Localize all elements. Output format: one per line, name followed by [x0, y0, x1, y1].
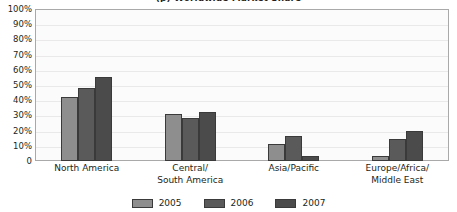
- bar: [268, 144, 285, 161]
- bar: [406, 131, 423, 161]
- chart-legend: 200520062007: [0, 196, 457, 210]
- y-axis-tick-label: 60%: [13, 66, 32, 74]
- x-axis-category-label: Asia/Pacific: [242, 163, 346, 175]
- x-axis-category-label: North America: [35, 163, 139, 175]
- y-axis-tick-label: 10%: [13, 142, 32, 150]
- y-axis-tick-label: 70%: [13, 51, 32, 59]
- bar: [285, 136, 302, 161]
- bar: [372, 156, 389, 161]
- legend-swatch-icon: [204, 199, 225, 208]
- bar: [182, 118, 199, 161]
- y-axis-tick-label: 0: [27, 157, 32, 165]
- y-axis: 100%90%80%70%60%50%40%30%20%10%0: [0, 9, 32, 161]
- bar: [78, 88, 95, 161]
- worldwide-market-share-chart: (p) Worldwide Market Share 100%90%80%70%…: [0, 0, 457, 212]
- y-axis-tick-label: 40%: [13, 96, 32, 104]
- legend-swatch-icon: [275, 199, 296, 208]
- bar: [199, 112, 216, 161]
- legend-item[interactable]: 2005: [132, 199, 182, 208]
- bar: [61, 97, 78, 161]
- legend-label: 2007: [302, 199, 325, 208]
- y-axis-tick-label: 50%: [13, 81, 32, 89]
- bar: [165, 114, 182, 161]
- x-axis-labels: North AmericaCentral/ South AmericaAsia/…: [35, 163, 449, 193]
- bar: [302, 156, 319, 161]
- bar: [95, 77, 112, 161]
- legend-swatch-icon: [132, 199, 153, 208]
- chart-title: (p) Worldwide Market Share: [0, 0, 457, 2]
- y-axis-tick-label: 20%: [13, 127, 32, 135]
- y-axis-tick-label: 90%: [13, 20, 32, 28]
- y-axis-tick-label: 100%: [8, 5, 32, 13]
- x-axis-category-label: Central/ South America: [139, 163, 243, 186]
- x-axis-category-label: Europe/Africa/ Middle East: [346, 163, 450, 186]
- legend-item[interactable]: 2007: [275, 199, 325, 208]
- y-axis-tick-label: 30%: [13, 111, 32, 119]
- legend-label: 2006: [231, 199, 254, 208]
- bar: [389, 139, 406, 161]
- bars-layer: [35, 9, 449, 161]
- legend-label: 2005: [159, 199, 182, 208]
- legend-item[interactable]: 2006: [204, 199, 254, 208]
- y-axis-tick-label: 80%: [13, 35, 32, 43]
